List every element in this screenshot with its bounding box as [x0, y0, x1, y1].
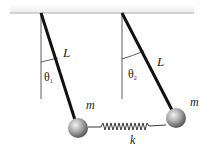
angle-label-right: θ2: [128, 67, 137, 81]
pendulum-left: L θ1 m: [41, 13, 95, 138]
angle-label-left: θ1: [44, 70, 53, 84]
mass-label-left: m: [86, 98, 95, 112]
mass-ball-left: [68, 118, 88, 138]
pendulum-right: L θ2 m: [122, 13, 199, 128]
spring-constant-label: k: [130, 133, 136, 147]
mass-label-right: m: [190, 95, 199, 109]
ceiling: [10, 4, 194, 13]
length-label-left: L: [62, 45, 70, 60]
spring: k: [88, 123, 166, 147]
mass-ball-right: [166, 108, 186, 128]
coupled-pendulum-diagram: L θ1 m L θ2 m k: [0, 0, 206, 152]
rod-left: [41, 13, 75, 120]
rod-right: [122, 13, 172, 110]
length-label-right: L: [156, 54, 164, 69]
